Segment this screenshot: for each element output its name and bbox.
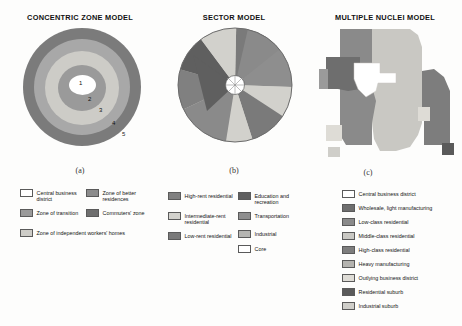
legend-item-high-class-residential: High-class residential bbox=[342, 246, 462, 254]
district-outlying-business-district bbox=[326, 125, 342, 141]
legend-label-core: Core bbox=[255, 245, 267, 252]
panel-title-sector: SECTOR MODEL bbox=[160, 13, 308, 22]
swatch-icon-education-recreation bbox=[238, 192, 251, 200]
zone-number-4: 4 bbox=[112, 120, 115, 126]
legend-label-residential-suburb: Residential suburb bbox=[359, 288, 404, 295]
legend-label-intermediate-rent: Intermediate-rent residential bbox=[185, 212, 235, 226]
legend-item-industrial-suburb: Industrial suburb bbox=[342, 302, 462, 310]
legend-item-transition: Zone of transition bbox=[20, 209, 92, 217]
district-residential-suburb bbox=[442, 143, 454, 155]
swatch-icon-cbd bbox=[20, 189, 33, 197]
legend-label-transportation: Transportation bbox=[255, 212, 290, 219]
swatch-icon-low-rent bbox=[168, 232, 181, 240]
swatch-icon-heavy-manufacturing bbox=[342, 260, 355, 268]
legend-item-industrial: Industrial bbox=[238, 230, 308, 238]
legend-label-low-rent: Low-rent residential bbox=[185, 232, 232, 239]
legend-label-education-recreation: Education and recreation bbox=[255, 192, 309, 206]
legend-label-workers-homes: Zone of independent workers' homes bbox=[37, 229, 126, 236]
swatch-icon-high-rent bbox=[168, 192, 181, 200]
core-spokes-icon bbox=[226, 76, 245, 95]
zone-number-5: 5 bbox=[122, 131, 125, 137]
swatch-icon-industrial-suburb bbox=[342, 302, 355, 310]
legend-item-residential-suburb: Residential suburb bbox=[342, 288, 462, 296]
caption-c: (c) bbox=[318, 168, 418, 177]
legend-label-cbd: Central business district bbox=[37, 189, 93, 203]
legend-label-industrial: Industrial bbox=[255, 230, 277, 237]
legend-item-commuters: Commuters' zone bbox=[86, 209, 160, 217]
swatch-icon-transition bbox=[20, 209, 33, 217]
legend-item-cbd-nuclei: Central business district bbox=[342, 190, 462, 198]
zone-number-2: 2 bbox=[88, 96, 91, 102]
panel-title-multiple-nuclei: MULTIPLE NUCLEI MODEL bbox=[308, 13, 462, 22]
swatch-icon-residential-suburb bbox=[342, 288, 355, 296]
legend-item-high-rent: High-rent residential bbox=[168, 192, 234, 200]
legend-label-cbd-nuclei: Central business district bbox=[359, 190, 416, 197]
swatch-icon-wholesale bbox=[342, 204, 355, 212]
legend-label-industrial-suburb: Industrial suburb bbox=[359, 302, 399, 309]
legend-label-heavy-manufacturing: Heavy manufacturing bbox=[359, 260, 410, 267]
legend-label-commuters: Commuters' zone bbox=[103, 209, 145, 216]
panel-multiple-nuclei-model: MULTIPLE NUCLEI MODEL bbox=[308, 0, 462, 326]
legend-item-wholesale: Wholesale, light manufacturing bbox=[342, 204, 462, 212]
panel-title-concentric-zone: CONCENTRIC ZONE MODEL bbox=[0, 13, 160, 22]
swatch-icon-intermediate-rent bbox=[168, 212, 181, 220]
legend-item-low-class-residential: Low-class residential bbox=[342, 218, 462, 226]
district-wholesale-left-tab bbox=[319, 69, 328, 89]
multiple-nuclei-diagram bbox=[318, 27, 460, 155]
legend-item-middle-class-residential: Middle-class residential bbox=[342, 232, 462, 240]
legend-label-low-class-residential: Low-class residential bbox=[359, 218, 409, 225]
concentric-zone-diagram: 1 2 3 4 5 bbox=[23, 28, 141, 146]
sector-model-diagram bbox=[177, 27, 293, 143]
swatch-icon-outlying-business-district bbox=[342, 274, 355, 282]
nuclei-map-svg bbox=[318, 27, 460, 157]
legend-label-high-rent: High-rent residential bbox=[185, 192, 233, 199]
swatch-icon-cbd-nuclei bbox=[342, 190, 355, 198]
legend-item-core: Core bbox=[238, 245, 308, 253]
legend-item-outlying-business-district: Outlying business district bbox=[342, 274, 462, 282]
legend-item-low-rent: Low-rent residential bbox=[168, 232, 234, 240]
swatch-icon-workers-homes bbox=[20, 229, 33, 237]
swatch-icon-transportation bbox=[238, 212, 251, 220]
panel-concentric-zone-model: CONCENTRIC ZONE MODEL 1 2 3 4 5 (a) Cent… bbox=[0, 0, 160, 326]
legend-label-high-class-residential: High-class residential bbox=[359, 246, 410, 253]
legend-item-better-residences: Zone of better residences bbox=[86, 189, 160, 203]
legend-label-wholesale: Wholesale, light manufacturing bbox=[359, 204, 433, 211]
legend-item-intermediate-rent: Intermediate-rent residential bbox=[168, 212, 234, 226]
legend-item-cbd: Central business district bbox=[20, 189, 92, 203]
district-heavy-manufacturing bbox=[418, 107, 430, 121]
caption-a: (a) bbox=[0, 166, 160, 175]
swatch-icon-commuters bbox=[86, 209, 99, 217]
legend-label-outlying-business-district: Outlying business district bbox=[359, 274, 419, 281]
sector-pie-svg bbox=[177, 27, 293, 143]
zone-number-3: 3 bbox=[99, 107, 102, 113]
legend-item-transportation: Transportation bbox=[238, 212, 308, 220]
legend-label-better-residences: Zone of better residences bbox=[103, 189, 161, 203]
swatch-icon-middle-class-residential bbox=[342, 232, 355, 240]
legend-item-heavy-manufacturing: Heavy manufacturing bbox=[342, 260, 462, 268]
swatch-icon-low-class-residential bbox=[342, 218, 355, 226]
swatch-icon-better-residences bbox=[86, 189, 99, 197]
legend-label-transition: Zone of transition bbox=[37, 209, 79, 216]
zone-1-cbd bbox=[69, 75, 96, 95]
swatch-icon-high-class-residential bbox=[342, 246, 355, 254]
zone-number-1: 1 bbox=[79, 80, 82, 86]
legend-item-education-recreation: Education and recreation bbox=[238, 192, 308, 206]
legend-label-middle-class-residential: Middle-class residential bbox=[359, 232, 415, 239]
district-industrial-suburb bbox=[328, 147, 340, 157]
swatch-icon-industrial bbox=[238, 230, 251, 238]
legend-item-workers-homes: Zone of independent workers' homes bbox=[20, 229, 160, 237]
caption-b: (b) bbox=[160, 166, 308, 175]
urban-models-figure: CONCENTRIC ZONE MODEL 1 2 3 4 5 (a) Cent… bbox=[0, 0, 462, 326]
panel-sector-model: SECTOR MODEL bbox=[160, 0, 308, 326]
swatch-icon-core bbox=[238, 245, 251, 253]
